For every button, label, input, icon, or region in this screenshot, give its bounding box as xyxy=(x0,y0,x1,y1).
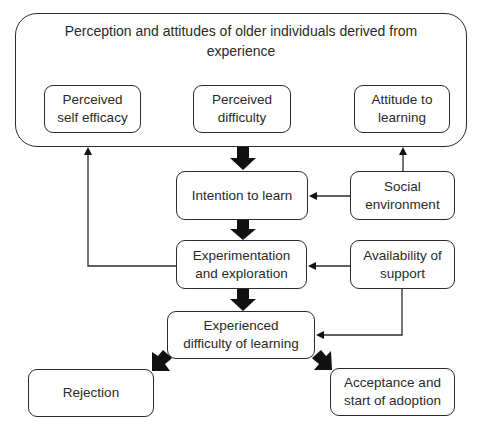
block-arrow-experienced-to-acceptance xyxy=(312,350,332,370)
node-label: environment xyxy=(365,196,439,214)
node-label: difficulty of learning xyxy=(183,335,298,353)
group-title-line2: experience xyxy=(36,41,446,61)
block-arrow-perception-to-intention xyxy=(230,147,256,170)
block-arrow-experimentation-to-experienced xyxy=(230,289,256,311)
node-label: Availability of xyxy=(363,247,442,265)
node-label: Social xyxy=(365,178,439,196)
node-label: learning xyxy=(372,109,433,127)
arrowhead-up-left xyxy=(84,147,92,155)
node-label: start of adoption xyxy=(344,392,441,410)
node-label: and exploration xyxy=(193,265,291,283)
node-social-environment: Socialenvironment xyxy=(350,171,455,220)
line-experimentation-to-perception xyxy=(88,153,176,266)
group-title: Perception and attitudes of older indivi… xyxy=(16,21,466,61)
node-experimentation-exploration: Experimentationand exploration xyxy=(176,240,307,289)
node-experienced-difficulty: Experienceddifficulty of learning xyxy=(167,311,315,359)
arrowhead-into-intention xyxy=(309,192,317,200)
block-arrow-intention-to-experimentation xyxy=(230,220,256,240)
node-perceived-self-efficacy: Perceivedself efficacy xyxy=(44,85,141,133)
node-label: Experimentation xyxy=(193,247,291,265)
node-label: Intention to learn xyxy=(192,187,293,205)
node-label: Acceptance and xyxy=(344,374,441,392)
node-label: difficulty xyxy=(212,109,272,127)
node-intention-to-learn: Intention to learn xyxy=(176,171,308,220)
node-availability-of-support: Availability ofsupport xyxy=(350,240,455,289)
group-title-line1: Perception and attitudes of older indivi… xyxy=(36,21,446,41)
node-label: support xyxy=(363,265,442,283)
node-acceptance-adoption: Acceptance andstart of adoption xyxy=(330,368,455,416)
node-label: Perceived xyxy=(57,91,127,109)
node-label: Experienced xyxy=(183,317,298,335)
node-attitude-to-learning: Attitude tolearning xyxy=(354,85,450,133)
node-label: self efficacy xyxy=(57,109,127,127)
arrowhead-into-experienced xyxy=(316,331,324,339)
node-label: Rejection xyxy=(63,384,119,402)
line-support-to-experienced xyxy=(322,289,402,335)
node-perceived-difficulty: Perceiveddifficulty xyxy=(193,85,291,133)
arrowhead-into-experimentation xyxy=(308,262,316,270)
arrowhead-up-right xyxy=(399,147,407,155)
node-label: Perceived xyxy=(212,91,272,109)
node-label: Attitude to xyxy=(372,91,433,109)
node-rejection: Rejection xyxy=(28,369,154,417)
